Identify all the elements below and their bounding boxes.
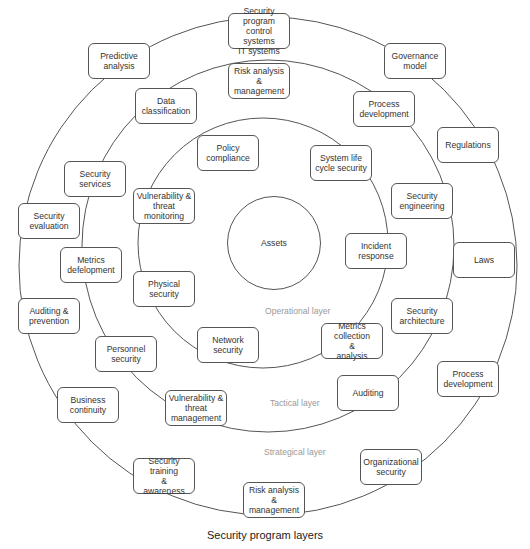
node-data-classification: Data classification — [135, 88, 197, 124]
node-regulations: Regulations — [437, 127, 499, 163]
node-security-engineering: Security engineering — [391, 183, 453, 219]
diagram-caption: Security program layers — [0, 529, 530, 541]
tactical-layer-label: Tactical layer — [270, 398, 320, 408]
node-risk-analysis-management-bottom: Risk analysis & management — [243, 482, 305, 518]
operational-layer-label: Operational layer — [265, 306, 330, 316]
node-process-development-top: Process development — [353, 91, 415, 127]
node-security-services: Security services — [64, 161, 126, 197]
node-vulnerability-threat-monitoring: Vulnerability & threat monitoring — [133, 188, 195, 224]
node-organizational-security: Organizational security — [360, 449, 422, 485]
node-metrics-collection-analysis: Metrics collection & analysis — [321, 323, 383, 359]
node-security-program: Security program control systems IT syst… — [228, 13, 290, 49]
node-predictive-analysis: Predictive analysis — [88, 43, 150, 79]
node-governance-model: Governance model — [384, 43, 446, 79]
node-personnel-security: Personnel security — [95, 336, 157, 372]
node-security-training-awareness: Security training & awareness — [133, 458, 195, 494]
node-vulnerability-threat-management: Vulnerability & threat management — [165, 390, 227, 426]
node-risk-analysis-management-top: Risk analysis & management — [228, 63, 290, 99]
assets-circle: Assets — [227, 196, 321, 290]
node-security-evaluation: Security evaluation — [18, 203, 80, 239]
node-system-life-cycle-security: System life cycle security — [310, 145, 372, 181]
node-incident-response: Incident response — [345, 233, 407, 269]
strategical-layer-label: Strategical layer — [264, 447, 326, 457]
node-auditing-prevention: Auditing & prevention — [18, 298, 80, 334]
node-policy-compliance: Policy compliance — [197, 135, 259, 171]
node-process-development-bottom: Process development — [437, 361, 499, 397]
node-physical-security: Physical security — [133, 271, 195, 307]
node-laws: Laws — [453, 242, 515, 278]
node-security-architecture: Security architecture — [391, 298, 453, 334]
node-metrics-defelopment: Metrics defelopment — [60, 247, 122, 283]
node-business-continuity: Business continuity — [57, 387, 119, 423]
node-auditing: Auditing — [337, 375, 399, 411]
node-network-security: Network security — [197, 327, 259, 363]
